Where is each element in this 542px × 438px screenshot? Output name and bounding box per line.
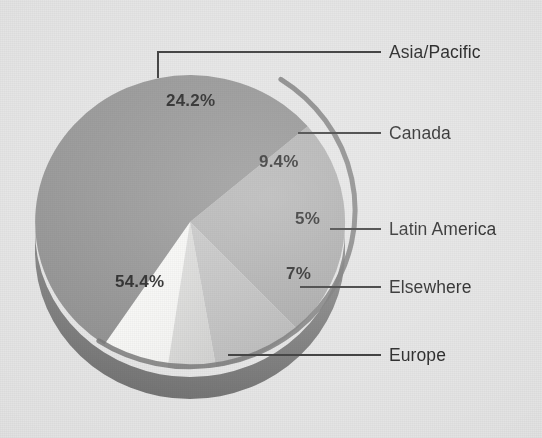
slice-value-europe: 54.4% xyxy=(115,272,164,292)
slice-label-elsewhere: Elsewhere xyxy=(389,277,472,298)
leader-line-asia-pacific xyxy=(158,52,381,78)
slice-value-latin-america: 5% xyxy=(295,209,320,229)
slice-value-asia-pacific: 24.2% xyxy=(166,91,215,111)
slice-label-canada: Canada xyxy=(389,123,451,144)
slice-value-elsewhere: 7% xyxy=(286,264,311,284)
slice-label-latin-america: Latin America xyxy=(389,219,496,240)
slice-value-canada: 9.4% xyxy=(259,152,299,172)
pie-chart-figure: 24.2% 9.4% 5% 7% 54.4% Asia/Pacific Cana… xyxy=(0,0,542,438)
slice-label-europe: Europe xyxy=(389,345,446,366)
slice-label-asia-pacific: Asia/Pacific xyxy=(389,42,481,63)
